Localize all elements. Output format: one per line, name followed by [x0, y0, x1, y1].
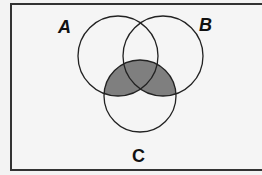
label-b: B: [199, 15, 212, 35]
label-a: A: [57, 17, 71, 37]
venn-diagram: A B C: [0, 0, 262, 175]
label-c: C: [132, 146, 145, 166]
